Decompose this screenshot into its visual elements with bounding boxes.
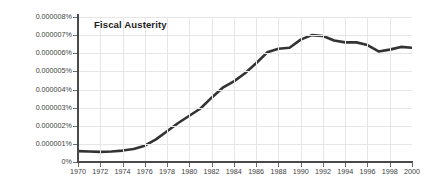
gridline-horizontal	[78, 53, 412, 54]
y-axis-tick-label: 0.000005%	[2, 67, 72, 74]
y-axis-tick	[73, 126, 77, 127]
line-chart: 0%0.000001%0.000002%0.000003%0.000004%0.…	[0, 0, 435, 191]
x-axis-tick-label: 1984	[226, 167, 242, 176]
y-axis-tick-label: 0.000001%	[2, 140, 72, 147]
x-axis-tick-label: 1994	[337, 167, 353, 176]
y-axis-tick	[73, 35, 77, 36]
gridline-horizontal	[78, 126, 412, 127]
gridline-horizontal	[78, 35, 412, 36]
y-axis-tick	[73, 90, 77, 91]
y-axis-tick	[73, 17, 77, 18]
x-axis-tick-label: 1986	[248, 167, 264, 176]
gridline-horizontal	[78, 90, 412, 91]
gridline-horizontal	[78, 17, 412, 18]
x-axis-tick-label: 1970	[70, 167, 86, 176]
x-axis-tick-label: 1992	[315, 167, 331, 176]
gridline-horizontal	[78, 144, 412, 145]
x-axis-tick-label: 1988	[270, 167, 286, 176]
gridline-horizontal	[78, 108, 412, 109]
x-axis-tick-label: 1990	[293, 167, 309, 176]
gridline-horizontal	[78, 71, 412, 72]
plot-area	[78, 17, 412, 162]
y-axis-tick-label: 0.000008%	[2, 13, 72, 20]
x-axis-tick-label: 1996	[359, 167, 375, 176]
y-axis-tick	[73, 108, 77, 109]
x-axis-tick-label: 1998	[382, 167, 398, 176]
chart-title: Fiscal Austerity	[94, 19, 167, 30]
x-axis-tick-label: 1976	[137, 167, 153, 176]
x-axis-tick-label: 1980	[181, 167, 197, 176]
y-axis-tick	[73, 144, 77, 145]
x-axis-line	[77, 161, 413, 163]
x-axis-tick-label: 1982	[204, 167, 220, 176]
y-axis-tick	[73, 162, 77, 163]
x-axis-tick-label: 1978	[159, 167, 175, 176]
y-axis-labels: 0%0.000001%0.000002%0.000003%0.000004%0.…	[0, 0, 72, 191]
y-axis-tick-label: 0.000002%	[2, 122, 72, 129]
x-axis-tick-label: 1972	[92, 167, 108, 176]
y-axis-tick-label: 0.000004%	[2, 86, 72, 93]
y-axis-line	[77, 14, 79, 163]
x-axis-tick-label: 2000	[404, 167, 420, 176]
y-axis-tick-label: 0.000003%	[2, 104, 72, 111]
y-axis-tick	[73, 53, 77, 54]
y-axis-tick-label: 0.000006%	[2, 49, 72, 56]
y-axis-tick	[73, 71, 77, 72]
x-axis-tick-label: 1974	[115, 167, 131, 176]
y-axis-tick-label: 0.000007%	[2, 31, 72, 38]
y-axis-tick-label: 0%	[2, 158, 72, 165]
